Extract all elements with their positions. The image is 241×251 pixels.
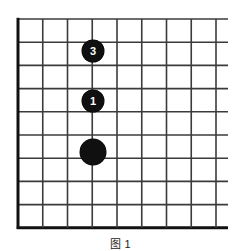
stone-move-number: 1 xyxy=(90,96,96,107)
go-board-grid xyxy=(0,0,241,236)
stone-move-1[interactable]: 1 xyxy=(82,90,104,112)
grid-lines xyxy=(17,18,228,229)
stone-move-number: 3 xyxy=(90,46,96,57)
stone-black[interactable] xyxy=(80,139,106,165)
figure-caption: 图 1 xyxy=(0,238,241,251)
go-diagram-figure: 31 图 1 xyxy=(0,0,241,251)
go-board[interactable]: 31 xyxy=(0,0,241,236)
stone-move-3[interactable]: 3 xyxy=(82,40,104,62)
